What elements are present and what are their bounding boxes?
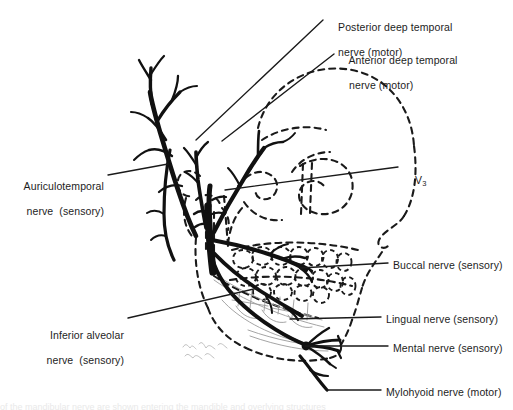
- inferior-alveolar-entry-marker: [207, 245, 213, 251]
- lingual-leader: [290, 317, 381, 319]
- tooth-mand-10: [295, 285, 312, 301]
- anterior-alveolar-outline: [352, 288, 362, 320]
- cutoff-caption-text: of the mandibular nerve are shown enteri…: [0, 402, 513, 410]
- label-auriculotemporal-nerve: Auriculotemporal nerve (sensory): [0, 167, 104, 230]
- anterior-deep-temporal-branch-2: [264, 142, 283, 148]
- anterior-deep-temporal-branch-5: [228, 168, 240, 186]
- posterior-deep-temporal-nerve: [196, 152, 206, 228]
- anterior-deep-temporal-branch-3: [283, 133, 295, 142]
- inferior-alveolar-nerve: [212, 258, 306, 345]
- zygomatic-body-outline: [244, 202, 282, 220]
- label-auriculotemporal-line1: Auriculotemporal: [24, 180, 104, 192]
- anterior-deep-temporal-branch-1: [258, 131, 259, 156]
- tooth-max-7: [337, 253, 352, 271]
- mental-nerve-tip-3: [330, 364, 336, 368]
- label-posterior-deep-temporal-line1: Posterior deep temporal: [338, 21, 452, 33]
- tooth-mand-9: [274, 284, 292, 300]
- label-buccal-nerve: Buccal nerve (sensory): [393, 259, 503, 272]
- auriculotemporal-branch-a2: [151, 56, 164, 74]
- buccal-leader: [300, 263, 388, 268]
- auriculotemporal-small-2: [151, 235, 166, 240]
- label-lingual-nerve: Lingual nerve (sensory): [386, 313, 498, 326]
- mental-nerve-tip-1: [338, 336, 341, 344]
- anatomical-figure: Posterior deep temporal nerve (motor) An…: [0, 0, 513, 410]
- auriculotemporal-small-1: [147, 211, 164, 214]
- tooth-max-6: [322, 250, 338, 268]
- auriculotemporal-branch-b2: [180, 86, 197, 92]
- label-auriculotemporal-line2: nerve (sensory): [27, 205, 104, 217]
- trunk-spur-right-1: [212, 213, 225, 215]
- label-anterior-deep-temporal-nerve: Anterior deep temporal nerve (motor): [337, 41, 458, 104]
- maxilla-front-outline: [362, 252, 382, 288]
- buccal-branch-1: [282, 257, 305, 259]
- label-inferior-alveolar-line2: nerve (sensory): [47, 354, 124, 366]
- anterior-deep-temporal-branch-4: [250, 152, 262, 170]
- label-anterior-deep-temporal-line2: nerve (motor): [349, 79, 413, 91]
- auriculotemporal-nerve-main: [150, 92, 196, 236]
- signature-strokes: [183, 343, 227, 359]
- tooth-max-1: [233, 250, 253, 268]
- anterior-deep-temporal-nerve: [214, 148, 264, 232]
- pterygoid-plate-outline-2: [310, 163, 312, 213]
- tooth-mand-11: [313, 287, 329, 303]
- tooth-max-5: [307, 248, 324, 266]
- auriculotemporal-branch-b: [158, 92, 180, 120]
- label-inferior-alveolar-line1: Inferior alveolar: [50, 329, 124, 341]
- nerve-trunks: [131, 56, 341, 390]
- posterior-deep-temporal-branch-2: [196, 142, 208, 158]
- mandible-angle-outline: [208, 308, 246, 348]
- label-inferior-alveolar-nerve: Inferior alveolar nerve (sensory): [0, 316, 124, 379]
- orbital-rim-outline: [299, 159, 353, 214]
- coronoid-process-outline: [228, 206, 244, 244]
- label-v3-subscript: 3: [422, 179, 426, 188]
- auriculotemporal-leader: [108, 164, 168, 175]
- root-6: [307, 303, 308, 320]
- label-v3: V3: [403, 161, 426, 203]
- mandibular-trunk-upper: [209, 186, 210, 206]
- label-mylohyoid-nerve: Mylohyoid nerve (motor): [386, 386, 502, 399]
- label-mental-nerve: Mental nerve (sensory): [393, 342, 503, 355]
- label-anterior-deep-temporal-line1: Anterior deep temporal: [349, 54, 458, 66]
- auriculotemporal-branch-c1: [131, 112, 148, 118]
- inferior-alveolar-shadow: [214, 264, 305, 344]
- auriculotemporal-branch-d2: [134, 150, 149, 160]
- nasal-profile: [378, 216, 404, 248]
- root-2: [250, 291, 252, 308]
